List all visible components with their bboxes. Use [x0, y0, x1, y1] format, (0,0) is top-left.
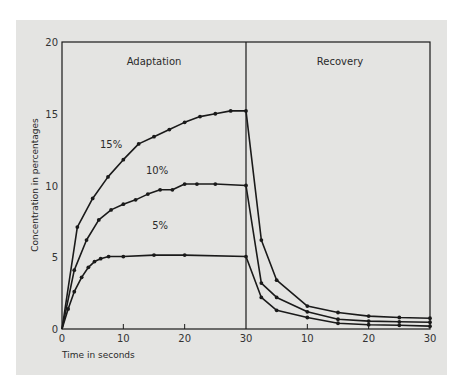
data-point	[275, 278, 279, 282]
y-tick-label: 5	[52, 252, 58, 263]
data-point	[152, 135, 156, 139]
series-label-15pct: 15%	[100, 139, 122, 150]
line-chart: 051015200102030102030 Adaptation Recover…	[0, 0, 465, 389]
data-point	[80, 275, 84, 279]
data-point	[198, 115, 202, 119]
x-tick-label: 30	[424, 333, 437, 344]
data-point	[336, 321, 340, 325]
data-point	[183, 120, 187, 124]
data-point	[72, 268, 76, 272]
y-tick-label: 10	[45, 181, 58, 192]
adaptation-label: Adaptation	[127, 56, 182, 67]
data-point	[213, 112, 217, 116]
data-point	[171, 188, 175, 192]
data-point	[367, 323, 371, 327]
data-point	[305, 310, 309, 314]
data-point	[109, 208, 113, 212]
series-label-10pct: 10%	[146, 165, 168, 176]
data-point	[305, 316, 309, 320]
data-point	[134, 198, 138, 202]
data-point	[367, 314, 371, 318]
data-point	[428, 324, 432, 328]
data-point	[93, 260, 97, 264]
recovery-label: Recovery	[317, 56, 363, 67]
data-point	[107, 255, 111, 259]
data-point	[428, 320, 432, 324]
data-point	[146, 192, 150, 196]
series-label-5pct: 5%	[152, 220, 168, 231]
data-point	[397, 323, 401, 327]
data-point	[121, 255, 125, 259]
y-tick-label: 0	[52, 324, 58, 335]
x-tick-label: 10	[301, 333, 314, 344]
data-point	[259, 281, 263, 285]
data-point	[121, 202, 125, 206]
data-point	[75, 225, 79, 229]
x-tick-label: 0	[59, 333, 65, 344]
x-tick-label: 10	[117, 333, 130, 344]
data-point	[244, 255, 248, 259]
data-point	[428, 316, 432, 320]
data-point	[183, 253, 187, 257]
data-point	[397, 320, 401, 324]
y-tick-label: 15	[45, 109, 58, 120]
data-point	[99, 257, 103, 261]
data-point	[336, 311, 340, 315]
data-point	[275, 296, 279, 300]
data-point	[397, 316, 401, 320]
data-point	[152, 253, 156, 257]
data-point	[66, 307, 70, 311]
data-point	[195, 182, 199, 186]
data-point	[86, 265, 90, 269]
y-tick-label: 20	[45, 37, 58, 48]
data-point	[275, 308, 279, 312]
data-point	[229, 109, 233, 113]
data-point	[121, 158, 125, 162]
data-point	[244, 184, 248, 188]
data-point	[72, 290, 76, 294]
x-tick-label: 30	[240, 333, 253, 344]
data-point	[106, 175, 110, 179]
data-point	[137, 142, 141, 146]
data-point	[336, 317, 340, 321]
data-point	[259, 238, 263, 242]
data-point	[259, 296, 263, 300]
data-point	[97, 218, 101, 222]
data-point	[305, 304, 309, 308]
data-point	[167, 128, 171, 132]
data-point	[158, 188, 162, 192]
series-labels: 15%10%5%	[100, 139, 168, 230]
data-point	[244, 109, 248, 113]
data-point	[91, 197, 95, 201]
x-tick-label: 20	[362, 333, 375, 344]
data-point	[85, 238, 89, 242]
axis-ticks: 051015200102030102030	[45, 37, 436, 344]
x-axis-title: Time in seconds	[61, 350, 135, 360]
data-point	[213, 182, 217, 186]
x-tick-label: 20	[178, 333, 191, 344]
data-point	[367, 319, 371, 323]
y-axis-title: Concentration in percentages	[30, 118, 40, 252]
data-point	[183, 182, 187, 186]
